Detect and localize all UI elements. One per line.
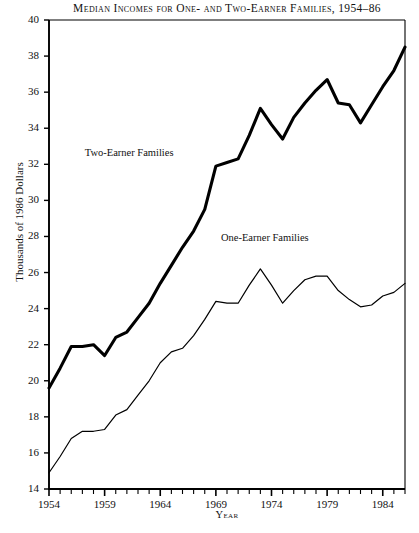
x-tick-label: 1959 xyxy=(83,499,127,510)
chart-title: Median Incomes for One- and Two-Earner F… xyxy=(49,1,405,15)
axis-ticks xyxy=(44,20,405,496)
y-tick-label: 26 xyxy=(13,267,39,278)
plot-canvas xyxy=(0,0,419,533)
y-tick-label: 36 xyxy=(13,86,39,97)
x-tick-label: 1974 xyxy=(250,499,294,510)
x-tick-label: 1964 xyxy=(138,499,182,510)
y-tick-label: 38 xyxy=(13,50,39,61)
x-axis-label: Year xyxy=(49,509,405,520)
y-tick-label: 16 xyxy=(13,447,39,458)
y-tick-label: 34 xyxy=(13,122,39,133)
series-line-1 xyxy=(49,47,405,388)
x-tick-label: 1954 xyxy=(27,499,71,510)
x-tick-label: 1984 xyxy=(361,499,405,510)
y-tick-label: 18 xyxy=(13,411,39,422)
y-tick-label: 40 xyxy=(13,14,39,25)
y-tick-label: 32 xyxy=(13,158,39,169)
series-line-2 xyxy=(49,269,405,473)
data-series xyxy=(49,47,405,473)
series-label-1: Two-Earner Families xyxy=(85,147,174,159)
y-tick-label: 28 xyxy=(13,230,39,241)
x-tick-label: 1969 xyxy=(194,499,238,510)
chart-figure: Median Incomes for One- and Two-Earner F… xyxy=(0,0,419,533)
y-tick-label: 30 xyxy=(13,194,39,205)
y-tick-label: 22 xyxy=(13,339,39,350)
series-label-2: One-Earner Families xyxy=(221,232,309,244)
y-tick-label: 14 xyxy=(13,483,39,494)
axes-frame xyxy=(49,20,405,489)
y-tick-label: 20 xyxy=(13,375,39,386)
x-tick-label: 1979 xyxy=(305,499,349,510)
y-tick-label: 24 xyxy=(13,303,39,314)
